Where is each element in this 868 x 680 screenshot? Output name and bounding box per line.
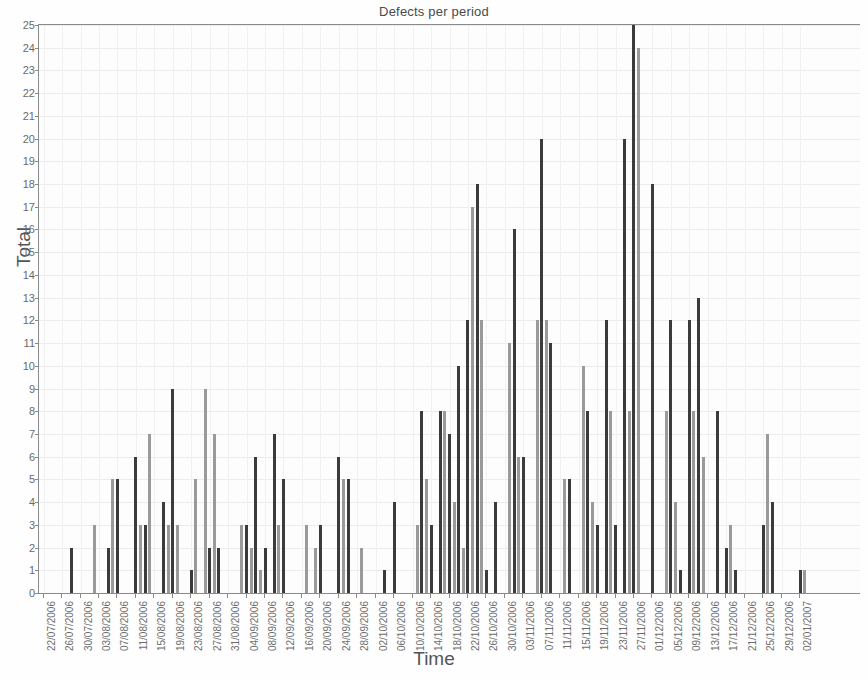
bar bbox=[217, 548, 220, 593]
x-tick-label: 11/08/2006 bbox=[139, 601, 149, 650]
x-tick-mark bbox=[153, 594, 154, 598]
x-tick-mark bbox=[80, 594, 81, 598]
y-tick-mark bbox=[35, 548, 39, 549]
bar bbox=[623, 139, 626, 593]
bar bbox=[430, 525, 433, 593]
x-tick-label: 03/11/2006 bbox=[526, 601, 536, 650]
bar bbox=[443, 411, 446, 593]
bar bbox=[697, 298, 700, 593]
bar bbox=[517, 457, 520, 593]
y-tick-label: 25 bbox=[23, 20, 35, 31]
x-tick-mark bbox=[578, 594, 579, 598]
x-tick-mark bbox=[375, 594, 376, 598]
bar bbox=[337, 457, 340, 593]
bar bbox=[393, 502, 396, 593]
x-tick-mark bbox=[172, 594, 173, 598]
bar bbox=[360, 548, 363, 593]
bar bbox=[688, 320, 691, 593]
x-tick-mark bbox=[356, 594, 357, 598]
bar bbox=[766, 434, 769, 593]
bar bbox=[545, 320, 548, 593]
x-tick-label: 22/07/2006 bbox=[47, 601, 57, 651]
y-tick-label: 12 bbox=[23, 315, 35, 326]
x-tick-mark bbox=[651, 594, 652, 598]
y-tick-label: 19 bbox=[23, 156, 35, 167]
x-tick-label: 08/09/2006 bbox=[268, 601, 278, 651]
x-tick-label: 20/09/2006 bbox=[323, 601, 333, 651]
x-tick-mark bbox=[61, 594, 62, 598]
x-tick-label: 12/09/2006 bbox=[286, 601, 296, 651]
y-tick-mark bbox=[35, 139, 39, 140]
bar bbox=[162, 502, 165, 593]
x-tick-label: 15/08/2006 bbox=[157, 601, 167, 651]
x-tick-mark bbox=[762, 594, 763, 598]
x-tick-label: 19/08/2006 bbox=[176, 601, 186, 651]
x-tick-mark bbox=[725, 594, 726, 598]
bars-layer bbox=[39, 25, 860, 593]
bar bbox=[729, 525, 732, 593]
x-tick-mark bbox=[781, 594, 782, 598]
bar bbox=[628, 411, 631, 593]
x-tick-label: 02/01/2007 bbox=[803, 601, 813, 651]
x-tick-label: 07/08/2006 bbox=[120, 601, 130, 651]
x-tick-mark bbox=[522, 594, 523, 598]
y-tick-mark bbox=[35, 93, 39, 94]
bar bbox=[254, 457, 257, 593]
y-tick-mark bbox=[35, 570, 39, 571]
bar bbox=[692, 411, 695, 593]
x-tick-mark bbox=[209, 594, 210, 598]
bar bbox=[674, 502, 677, 593]
bar bbox=[637, 48, 640, 593]
x-tick-label: 04/09/2006 bbox=[250, 601, 260, 651]
bar bbox=[116, 479, 119, 593]
bar bbox=[277, 525, 280, 593]
y-tick-label: 17 bbox=[23, 201, 35, 212]
bar bbox=[803, 570, 806, 593]
y-tick-label: 11 bbox=[24, 338, 35, 349]
bar bbox=[425, 479, 428, 593]
x-tick-label: 15/11/2006 bbox=[582, 601, 592, 650]
y-tick-label: 13 bbox=[23, 292, 35, 303]
y-tick-mark bbox=[35, 389, 39, 390]
x-tick-label: 31/08/2006 bbox=[231, 601, 241, 651]
x-tick-label: 19/11/2006 bbox=[600, 601, 610, 650]
bar bbox=[476, 184, 479, 593]
x-tick-mark bbox=[246, 594, 247, 598]
x-tick-label: 26/07/2006 bbox=[65, 601, 75, 651]
bar bbox=[213, 434, 216, 593]
bar bbox=[194, 479, 197, 593]
x-tick-label: 03/08/2006 bbox=[102, 601, 112, 651]
bar bbox=[93, 525, 96, 593]
x-tick-mark bbox=[541, 594, 542, 598]
y-tick-mark bbox=[35, 48, 39, 49]
x-tick-label: 27/08/2006 bbox=[213, 601, 223, 651]
x-tick-mark bbox=[467, 594, 468, 598]
bar bbox=[462, 548, 465, 593]
x-tick-mark bbox=[116, 594, 117, 598]
x-tick-mark bbox=[744, 594, 745, 598]
x-tick-label: 27/11/2006 bbox=[637, 601, 647, 650]
bar bbox=[480, 320, 483, 593]
x-tick-label: 01/12/2006 bbox=[655, 601, 665, 651]
x-tick-mark bbox=[707, 594, 708, 598]
y-tick-mark bbox=[35, 411, 39, 412]
x-tick-mark bbox=[485, 594, 486, 598]
x-tick-label: 26/10/2006 bbox=[489, 601, 499, 651]
bar bbox=[245, 525, 248, 593]
x-axis-title: Time bbox=[0, 648, 868, 670]
x-tick-label: 16/09/2006 bbox=[305, 601, 315, 651]
y-tick-mark bbox=[35, 434, 39, 435]
bar bbox=[471, 207, 474, 593]
bar bbox=[540, 139, 543, 593]
bar bbox=[167, 525, 170, 593]
x-tick-label: 05/12/2006 bbox=[674, 601, 684, 651]
bar bbox=[264, 548, 267, 593]
x-tick-mark bbox=[633, 594, 634, 598]
bar bbox=[448, 434, 451, 593]
bar bbox=[485, 570, 488, 593]
y-tick-mark bbox=[35, 479, 39, 480]
x-tick-label: 24/09/2006 bbox=[342, 601, 352, 651]
y-tick-mark bbox=[35, 320, 39, 321]
bar bbox=[139, 525, 142, 593]
x-tick-mark bbox=[98, 594, 99, 598]
